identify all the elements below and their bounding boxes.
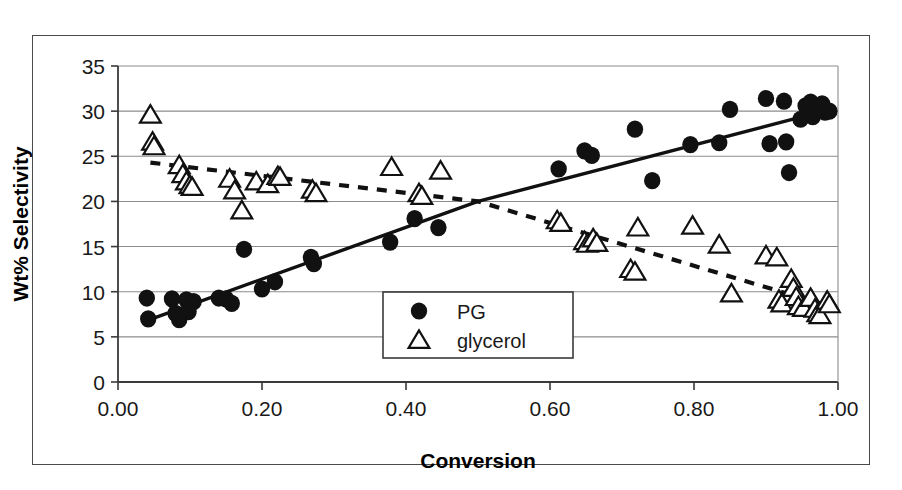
y-tick-label: 25 — [82, 145, 105, 168]
x-axis-ticks — [118, 382, 838, 390]
y-tick-label: 10 — [82, 281, 105, 304]
data-point-pg — [306, 255, 322, 272]
data-point-pg — [776, 93, 792, 110]
data-point-pg — [761, 135, 777, 152]
y-tick-label: 15 — [82, 236, 105, 259]
data-point-pg — [139, 289, 155, 306]
y-tick-label: 35 — [82, 55, 105, 78]
data-point-glycerol — [627, 218, 648, 235]
x-tick-label: 0.00 — [98, 397, 139, 420]
data-point-pg — [430, 219, 446, 236]
data-point-pg — [711, 134, 727, 151]
y-axis-title: Wt% Selectivity — [9, 146, 32, 302]
x-tick-label: 0.60 — [530, 397, 571, 420]
data-point-pg — [627, 121, 643, 138]
data-point-pg — [185, 293, 201, 310]
data-points-glycerol — [140, 105, 840, 323]
y-tick-label: 0 — [93, 371, 105, 394]
scatter-chart: 05101520253035 0.000.200.400.600.801.00 … — [0, 0, 902, 490]
data-point-glycerol — [430, 161, 451, 178]
data-point-pg — [758, 90, 774, 107]
data-point-glycerol — [682, 216, 703, 233]
data-point-glycerol — [231, 201, 252, 218]
data-point-pg — [778, 133, 794, 150]
data-point-pg — [584, 147, 600, 164]
legend-label-pg: PG — [457, 301, 486, 323]
data-point-pg — [224, 295, 240, 312]
data-point-pg — [722, 101, 738, 118]
x-tick-label: 0.80 — [674, 397, 715, 420]
x-axis-tick-labels: 0.000.200.400.600.801.00 — [98, 397, 859, 420]
data-point-pg — [406, 210, 422, 227]
y-axis-ticks — [111, 66, 118, 382]
x-tick-label: 0.40 — [386, 397, 427, 420]
data-point-glycerol — [140, 105, 161, 122]
x-tick-label: 0.20 — [242, 397, 283, 420]
data-point-pg — [682, 136, 698, 153]
data-point-pg — [382, 233, 398, 250]
figure-container: 05101520253035 0.000.200.400.600.801.00 … — [0, 0, 902, 490]
y-axis-tick-labels: 05101520253035 — [82, 55, 105, 394]
data-point-glycerol — [381, 158, 402, 175]
y-tick-label: 30 — [82, 100, 105, 123]
data-point-pg — [781, 164, 797, 181]
data-point-pg — [267, 273, 283, 290]
data-point-pg — [550, 160, 566, 177]
data-point-pg — [140, 310, 156, 327]
data-point-pg — [821, 103, 837, 120]
y-tick-label: 20 — [82, 190, 105, 213]
x-tick-label: 1.00 — [818, 397, 859, 420]
x-axis-title: Conversion — [420, 449, 536, 472]
legend-marker-pg — [411, 302, 427, 319]
data-point-pg — [236, 241, 252, 258]
data-point-glycerol — [709, 235, 730, 252]
data-point-pg — [644, 172, 660, 189]
legend-label-glycerol: glycerol — [457, 330, 526, 352]
data-point-pg — [164, 290, 180, 307]
y-tick-label: 5 — [93, 326, 105, 349]
data-point-glycerol — [721, 284, 742, 301]
chart-legend: PGglycerol — [383, 292, 573, 358]
